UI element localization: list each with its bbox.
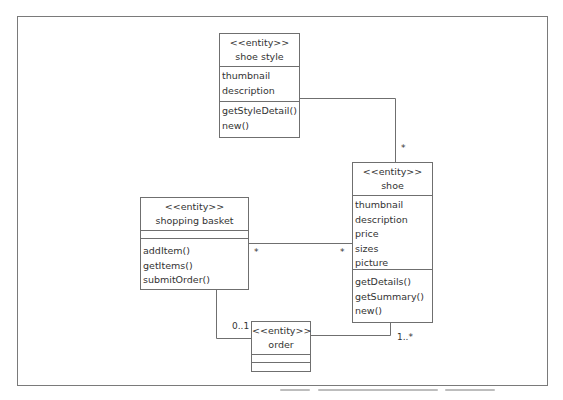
- association-order-shoe: [310, 322, 391, 336]
- attribute: price: [355, 227, 430, 242]
- method: getItems(): [143, 259, 246, 274]
- method: getSummary(): [355, 290, 430, 305]
- association-shoestyle-shoe: [299, 99, 396, 163]
- attribute: picture: [355, 256, 430, 271]
- attribute: sizes: [355, 242, 430, 257]
- class-shoe: <<entity>> shoe thumbnail description pr…: [352, 162, 433, 323]
- methods-compartment: getStyleDetail() new(): [220, 102, 299, 133]
- method: submitOrder(): [143, 273, 246, 288]
- attribute: thumbnail: [222, 69, 297, 84]
- multiplicity-shoe-from-order: 1..*: [397, 332, 413, 342]
- attribute: description: [355, 213, 430, 228]
- class-header: <<entity>> shoe style: [220, 34, 299, 67]
- stereotype: <<entity>>: [141, 200, 248, 214]
- attributes-compartment: thumbnail description: [220, 67, 299, 102]
- methods-compartment: [252, 363, 310, 371]
- multiplicity-basket-to-shoe: *: [254, 247, 259, 257]
- attributes-compartment: [141, 231, 248, 239]
- class-shoe-style: <<entity>> shoe style thumbnail descript…: [219, 33, 300, 138]
- attribute: description: [222, 84, 297, 99]
- stereotype: <<entity>>: [220, 36, 299, 50]
- multiplicity-order-from-basket: 0..1: [232, 321, 249, 331]
- class-name: shoe style: [220, 50, 299, 64]
- attributes-compartment: thumbnail description price sizes pictur…: [353, 196, 432, 270]
- multiplicity-shoe-from-style: *: [401, 143, 406, 153]
- stereotype: <<entity>>: [353, 165, 432, 179]
- class-order: <<entity>> order: [251, 321, 311, 372]
- methods-compartment: getDetails() getSummary() new(): [353, 270, 432, 319]
- class-header: <<entity>> shopping basket: [141, 198, 248, 231]
- method: getDetails(): [355, 275, 430, 290]
- class-header: <<entity>> shoe: [353, 163, 432, 196]
- attribute: thumbnail: [355, 198, 430, 213]
- methods-compartment: addItem() getItems() submitOrder(): [141, 239, 248, 288]
- attributes-compartment: [252, 355, 310, 363]
- class-name: shoe: [353, 179, 432, 193]
- class-header: <<entity>> order: [252, 322, 310, 355]
- method: new(): [355, 304, 430, 319]
- class-shopping-basket: <<entity>> shopping basket addItem() get…: [140, 197, 249, 290]
- method: new(): [222, 119, 297, 134]
- stereotype: <<entity>>: [252, 324, 310, 338]
- method: getStyleDetail(): [222, 104, 297, 119]
- multiplicity-shoe-from-basket: *: [340, 247, 345, 257]
- class-name: order: [252, 338, 310, 352]
- method: addItem(): [143, 244, 246, 259]
- association-basket-order: [217, 289, 252, 339]
- class-name: shopping basket: [141, 214, 248, 228]
